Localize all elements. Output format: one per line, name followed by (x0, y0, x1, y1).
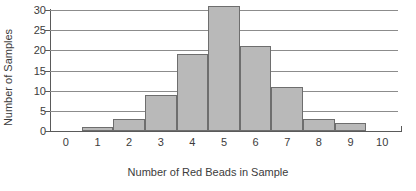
bar-series (50, 10, 398, 131)
plot-area (50, 10, 398, 131)
y-axis-tick-label: 0 (20, 126, 46, 137)
bar (240, 46, 272, 131)
x-axis-tick-label: 0 (54, 136, 78, 149)
bar (177, 54, 209, 131)
y-axis-tick-label: 25 (20, 25, 46, 36)
x-axis-tick-label: 6 (244, 136, 268, 149)
bar (271, 87, 303, 131)
x-axis-end-tick (401, 126, 402, 132)
y-axis-tick-label: 30 (20, 5, 46, 16)
bar (303, 119, 335, 131)
x-axis-tick-label: 9 (339, 136, 363, 149)
y-axis-tick-label: 5 (20, 106, 46, 117)
x-axis-tick-labels: 012345678910 (50, 136, 398, 150)
x-axis-tick-label: 8 (307, 136, 331, 149)
bar (113, 119, 145, 131)
y-axis-tick-label: 15 (20, 66, 46, 77)
y-axis-tick-label: 10 (20, 86, 46, 97)
histogram-chart: Number of Samples 051015202530 012345678… (0, 0, 416, 191)
x-axis-tick-label: 5 (212, 136, 236, 149)
y-axis-tick-label: 20 (20, 45, 46, 56)
bar (145, 95, 177, 131)
y-axis-title: Number of Samples (1, 5, 15, 150)
x-axis-tick-label: 4 (180, 136, 204, 149)
x-axis-tick-label: 3 (149, 136, 173, 149)
x-axis-line (50, 131, 402, 132)
x-axis-tick-label: 10 (370, 136, 394, 149)
y-axis-tick-labels: 051015202530 (20, 10, 46, 131)
bar (208, 6, 240, 131)
x-axis-tick-label: 7 (275, 136, 299, 149)
x-axis-tick-label: 1 (85, 136, 109, 149)
x-axis-tick-label: 2 (117, 136, 141, 149)
bar (335, 123, 367, 131)
x-axis-title: Number of Red Beads in Sample (0, 166, 416, 179)
